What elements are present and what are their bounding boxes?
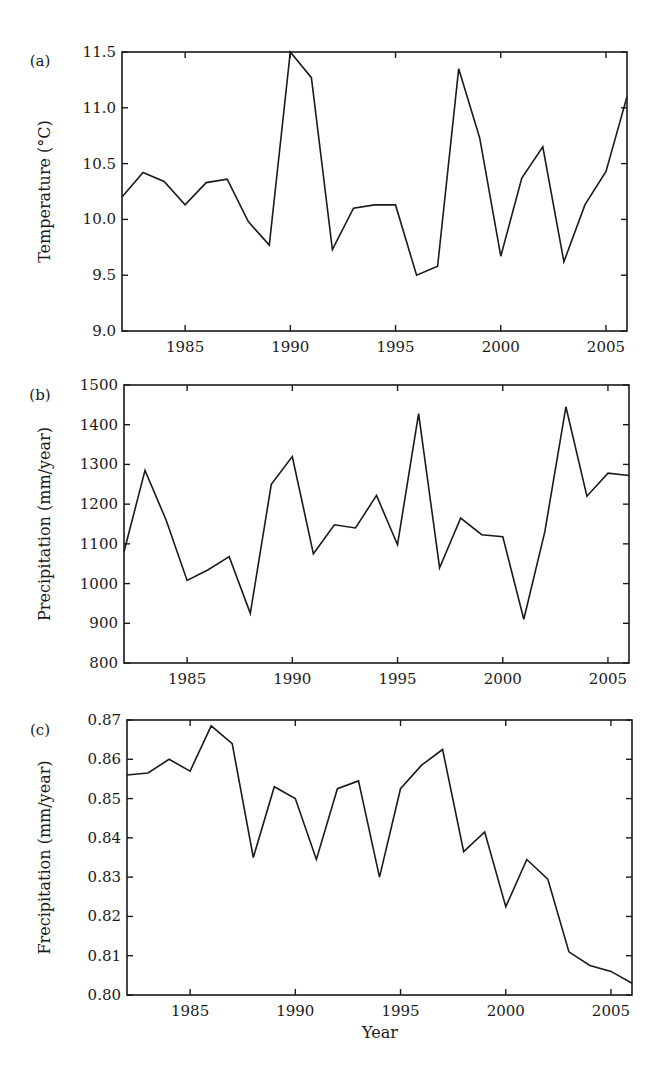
panel-label: (c) bbox=[30, 721, 50, 739]
x-tick-label: 2000 bbox=[484, 670, 522, 688]
x-tick-label: 1995 bbox=[381, 1002, 419, 1020]
x-tick-label: 1995 bbox=[376, 338, 414, 356]
plot-frame bbox=[127, 720, 632, 995]
panel-label: (b) bbox=[29, 386, 50, 404]
panel-label: (a) bbox=[30, 52, 51, 70]
data-series-line bbox=[127, 726, 632, 983]
y-tick-label: 0.84 bbox=[88, 829, 121, 847]
y-axis-label: Frecipitation (mm/year) bbox=[35, 760, 54, 954]
y-tick-label: 1000 bbox=[80, 575, 118, 593]
x-tick-label: 2000 bbox=[482, 338, 520, 356]
y-tick-label: 0.85 bbox=[88, 790, 121, 808]
x-tick-label: 1990 bbox=[273, 670, 311, 688]
y-tick-label: 11.5 bbox=[83, 43, 116, 61]
y-tick-label: 9.0 bbox=[92, 322, 116, 340]
y-tick-label: 0.87 bbox=[88, 711, 121, 729]
x-tick-label: 1985 bbox=[166, 338, 204, 356]
x-tick-label: 1985 bbox=[168, 670, 206, 688]
y-tick-label: 0.82 bbox=[88, 907, 121, 925]
x-tick-label: 2005 bbox=[587, 338, 625, 356]
x-tick-label: 1995 bbox=[378, 670, 416, 688]
x-tick-label: 2005 bbox=[589, 670, 627, 688]
y-tick-label: 1100 bbox=[80, 535, 118, 553]
y-tick-label: 800 bbox=[89, 654, 118, 672]
x-tick-label: 2005 bbox=[592, 1002, 630, 1020]
y-tick-label: 9.5 bbox=[92, 266, 116, 284]
y-tick-label: 900 bbox=[89, 614, 118, 632]
y-tick-label: 1500 bbox=[80, 376, 118, 394]
x-tick-label: 1990 bbox=[271, 338, 309, 356]
y-axis-label: Precipitation (mm/year) bbox=[35, 427, 54, 621]
y-tick-label: 0.81 bbox=[88, 947, 121, 965]
y-tick-label: 10.0 bbox=[83, 210, 116, 228]
y-tick-label: 11.0 bbox=[83, 99, 116, 117]
panel-b-precipitation: 1985199019952000200580090010001100120013… bbox=[29, 376, 629, 688]
data-series-line bbox=[122, 52, 627, 275]
figure: 198519901995200020059.09.510.010.511.011… bbox=[0, 0, 667, 1079]
x-tick-label: 1985 bbox=[171, 1002, 209, 1020]
plot-frame bbox=[124, 385, 629, 663]
y-tick-label: 1300 bbox=[80, 455, 118, 473]
x-tick-label: 2000 bbox=[487, 1002, 525, 1020]
panel-c-precipitation: 198519901995200020050.800.810.820.830.84… bbox=[30, 711, 632, 1020]
y-tick-label: 1400 bbox=[80, 416, 118, 434]
y-tick-label: 10.5 bbox=[83, 155, 116, 173]
data-series-line bbox=[124, 407, 629, 620]
x-axis-label: Year bbox=[361, 1023, 398, 1042]
y-tick-label: 0.80 bbox=[88, 986, 121, 1004]
y-axis-label: Temperature (°C) bbox=[35, 120, 54, 263]
y-tick-label: 0.83 bbox=[88, 868, 121, 886]
x-tick-label: 1990 bbox=[276, 1002, 314, 1020]
panel-a-temperature: 198519901995200020059.09.510.010.511.011… bbox=[30, 43, 627, 356]
y-tick-label: 1200 bbox=[80, 495, 118, 513]
y-tick-label: 0.86 bbox=[88, 750, 121, 768]
